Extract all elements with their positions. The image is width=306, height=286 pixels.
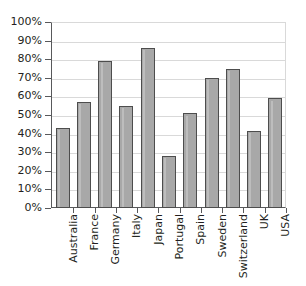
x-axis-category-label: Sweden bbox=[217, 214, 228, 257]
y-axis-tick-label: 50% bbox=[18, 109, 42, 120]
y-axis-tick-label: 70% bbox=[18, 72, 42, 83]
x-axis-tick-mark bbox=[158, 208, 159, 213]
bar-highlight bbox=[143, 50, 145, 207]
x-axis-tick-mark bbox=[286, 208, 287, 213]
x-axis-category-label: Australia bbox=[68, 214, 79, 263]
bar-highlight bbox=[271, 101, 273, 207]
bar bbox=[226, 69, 240, 209]
bars-group bbox=[52, 22, 286, 208]
x-axis-tick-mark bbox=[137, 208, 138, 213]
bar-highlight bbox=[101, 63, 103, 207]
bar bbox=[119, 106, 133, 208]
x-axis-category-label: Germany bbox=[110, 214, 121, 265]
bar bbox=[205, 78, 219, 208]
x-axis-category-label: Japan bbox=[153, 214, 164, 245]
x-axis-category-label: Switzerland bbox=[238, 214, 249, 278]
y-axis-tick-label: 40% bbox=[18, 128, 42, 139]
y-axis-tick-label: 90% bbox=[18, 35, 42, 46]
x-axis-tick-mark bbox=[73, 208, 74, 213]
y-axis-tick-label: 10% bbox=[18, 183, 42, 194]
bar bbox=[162, 156, 176, 208]
x-axis-tick-mark bbox=[116, 208, 117, 213]
bar-highlight bbox=[249, 133, 251, 207]
bar bbox=[247, 131, 261, 208]
y-axis-tick-label: 20% bbox=[18, 165, 42, 176]
x-axis-category-label: Italy bbox=[131, 214, 142, 238]
x-axis-tick-mark bbox=[222, 208, 223, 213]
bar-highlight bbox=[207, 80, 209, 207]
x-axis-category-label: Portugal bbox=[174, 214, 185, 260]
x-axis-tick-mark bbox=[180, 208, 181, 213]
y-axis-tick-label: 80% bbox=[18, 53, 42, 64]
x-axis-category-label: Spain bbox=[195, 214, 206, 245]
y-axis-tick-label: 60% bbox=[18, 90, 42, 101]
bar-highlight bbox=[164, 158, 166, 207]
y-axis-tick-mark bbox=[45, 208, 51, 209]
x-axis-tick-mark bbox=[201, 208, 202, 213]
bar-highlight bbox=[122, 108, 124, 207]
bar bbox=[98, 61, 112, 208]
bar-highlight bbox=[228, 71, 230, 207]
x-axis-tick-mark bbox=[265, 208, 266, 213]
bar bbox=[268, 98, 282, 208]
x-axis-tick-mark bbox=[243, 208, 244, 213]
bar-highlight bbox=[79, 104, 81, 207]
bar-chart: 0%10%20%30%40%50%60%70%80%90%100% Austra… bbox=[0, 0, 306, 286]
x-axis-category-label: France bbox=[89, 214, 100, 251]
y-axis-tick-label: 0% bbox=[25, 202, 42, 213]
bar-highlight bbox=[186, 116, 188, 207]
x-axis-category-label: UK bbox=[259, 214, 270, 229]
x-axis-category-label: USA bbox=[280, 214, 291, 237]
x-axis-tick-mark bbox=[95, 208, 96, 213]
y-axis-tick-label: 100% bbox=[11, 16, 42, 27]
bar bbox=[77, 102, 91, 208]
bar bbox=[141, 48, 155, 208]
bar bbox=[183, 113, 197, 208]
y-axis-tick-label: 30% bbox=[18, 146, 42, 157]
bar-highlight bbox=[58, 130, 60, 207]
bar bbox=[56, 128, 70, 208]
